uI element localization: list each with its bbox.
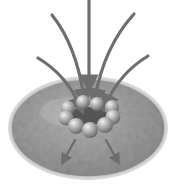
sphere: [90, 97, 104, 111]
sphere: [97, 117, 113, 133]
membrane-pore-illustration: [0, 0, 177, 189]
sphere: [76, 95, 90, 109]
sphere: [68, 118, 84, 134]
sphere: [82, 122, 98, 138]
